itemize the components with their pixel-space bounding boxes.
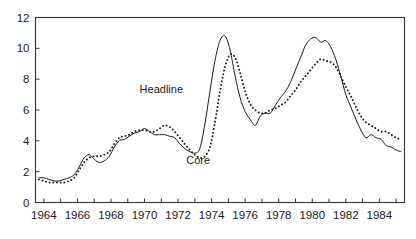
x-tick-label: 1964 (31, 209, 57, 221)
x-tick-label: 1974 (199, 209, 225, 221)
x-tick-label: 1966 (65, 209, 91, 221)
chart-figure: 1964196619681970197219741976197819801982… (0, 0, 416, 239)
core-label: Core (186, 154, 210, 166)
chart-background (0, 0, 416, 239)
line-chart: 1964196619681970197219741976197819801982… (0, 0, 416, 239)
x-tick-label: 1970 (132, 209, 158, 221)
x-axis-tick-labels: 1964196619681970197219741976197819801982… (31, 209, 393, 221)
y-tick-label: 0 (23, 197, 29, 209)
y-tick-label: 8 (23, 73, 29, 85)
y-tick-label: 12 (17, 12, 30, 24)
x-tick-label: 1984 (367, 209, 393, 221)
x-tick-label: 1978 (266, 209, 292, 221)
x-tick-label: 1972 (165, 209, 191, 221)
x-tick-label: 1976 (232, 209, 258, 221)
x-tick-label: 1980 (299, 209, 325, 221)
y-tick-label: 4 (23, 135, 30, 147)
headline-label: Headline (140, 83, 183, 95)
x-tick-label: 1982 (333, 209, 359, 221)
x-tick-label: 1968 (98, 209, 124, 221)
y-tick-label: 6 (23, 104, 29, 116)
y-tick-label: 10 (17, 42, 30, 54)
y-tick-label: 2 (23, 166, 29, 178)
